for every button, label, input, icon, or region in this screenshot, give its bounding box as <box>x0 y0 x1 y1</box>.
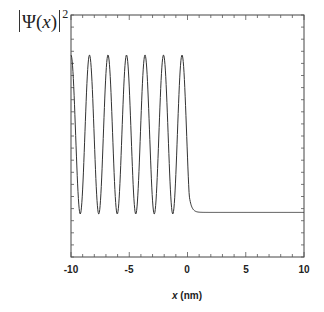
x-tick-label: -10 <box>64 264 78 275</box>
plot-frame <box>71 15 304 257</box>
axis-ticks <box>71 15 304 257</box>
x-axis-label: x (nm) <box>172 290 202 301</box>
x-tick-label: 0 <box>184 264 190 275</box>
plot-area <box>0 0 324 312</box>
y-axis-label: Ψ(x)2 <box>17 10 68 33</box>
x-tick-label: 5 <box>243 264 249 275</box>
x-tick-label: -5 <box>125 264 134 275</box>
wavefunction-curve <box>71 55 304 214</box>
x-tick-label: 10 <box>298 264 309 275</box>
